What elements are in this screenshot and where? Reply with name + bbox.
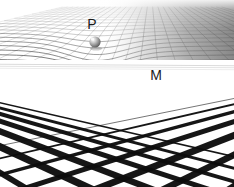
flat-perspective-grid bbox=[0, 59, 234, 187]
figure-canvas: P M bbox=[0, 0, 234, 187]
curved-surface-top-fade bbox=[0, 0, 234, 30]
label-m: M bbox=[150, 67, 162, 83]
label-p: P bbox=[87, 16, 96, 32]
spacetime-curvature-figure: P M bbox=[0, 0, 234, 187]
sphere-highlight bbox=[91, 38, 95, 41]
